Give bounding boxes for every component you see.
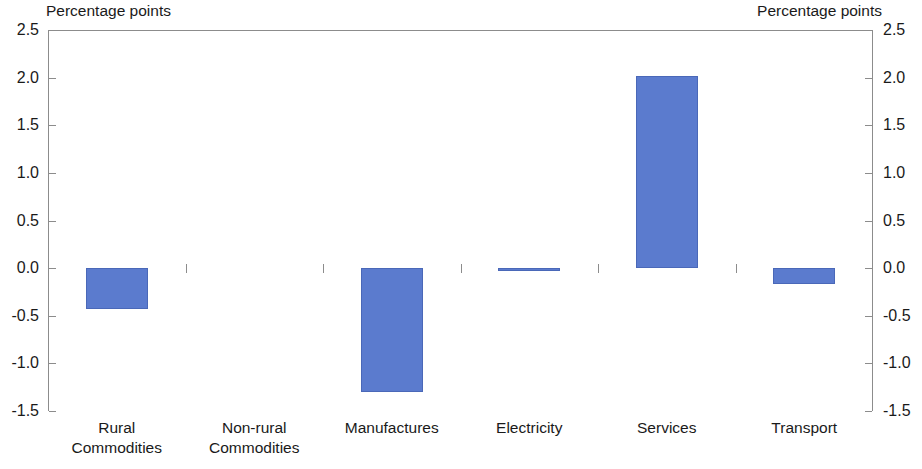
category-separator (598, 264, 599, 273)
y-tick-left (49, 173, 56, 174)
y-tick-label-right: 0.5 (883, 213, 905, 229)
y-tick-left (49, 221, 56, 222)
y-tick-right (865, 363, 872, 364)
y-tick-left (49, 316, 56, 317)
y-tick-label-right: 2.5 (883, 22, 905, 38)
category-separator (736, 264, 737, 273)
y-tick-left (49, 268, 56, 269)
y-tick-right (865, 411, 872, 412)
plot-area: 2.52.52.02.01.51.51.01.00.50.50.00.0-0.5… (48, 30, 873, 411)
category-label-line: Rural (48, 418, 186, 438)
y-tick-label-right: 0.0 (883, 260, 905, 276)
category-label: Electricity (461, 418, 599, 438)
category-separator (323, 264, 324, 273)
y-tick-label-left: 1.0 (17, 165, 39, 181)
y-tick-left (49, 30, 56, 31)
category-label-line: Transport (736, 418, 874, 438)
y-tick-right (865, 268, 872, 269)
y-tick-label-left: 2.0 (17, 70, 39, 86)
y-tick-left (49, 125, 56, 126)
category-label: Transport (736, 418, 874, 438)
y-tick-right (865, 221, 872, 222)
bar (773, 268, 835, 284)
bar (86, 268, 148, 309)
category-label: Manufactures (323, 418, 461, 438)
bar (361, 268, 423, 392)
y-tick-label-left: -1.0 (11, 355, 39, 371)
left-axis-caption: Percentage points (46, 2, 171, 20)
y-tick-right (865, 78, 872, 79)
y-tick-label-left: -1.5 (11, 403, 39, 419)
y-tick-label-left: 0.0 (17, 260, 39, 276)
right-axis-caption: Percentage points (757, 2, 882, 20)
category-label-line: Non-rural (186, 418, 324, 438)
y-tick-left (49, 78, 56, 79)
y-tick-label-right: 1.0 (883, 165, 905, 181)
category-label-line: Commodities (48, 438, 186, 458)
y-tick-label-right: -0.5 (883, 308, 911, 324)
y-tick-left (49, 363, 56, 364)
y-tick-label-left: 1.5 (17, 117, 39, 133)
bar (636, 76, 698, 268)
y-tick-left (49, 411, 56, 412)
y-tick-label-right: -1.5 (883, 403, 911, 419)
y-tick-right (865, 173, 872, 174)
y-tick-label-left: -0.5 (11, 308, 39, 324)
category-axis-labels: RuralCommoditiesNon-ruralCommoditiesManu… (48, 418, 873, 469)
category-label-line: Manufactures (323, 418, 461, 438)
bar (498, 268, 560, 271)
right-axis-line (872, 30, 873, 411)
category-separator (461, 264, 462, 273)
category-label: Services (598, 418, 736, 438)
y-tick-right (865, 125, 872, 126)
category-label-line: Services (598, 418, 736, 438)
y-tick-label-left: 2.5 (17, 22, 39, 38)
y-tick-right (865, 30, 872, 31)
zero-baseline (48, 30, 873, 31)
y-tick-label-right: -1.0 (883, 355, 911, 371)
y-tick-label-right: 1.5 (883, 117, 905, 133)
y-tick-right (865, 316, 872, 317)
category-label: RuralCommodities (48, 418, 186, 458)
category-label-line: Commodities (186, 438, 324, 458)
y-tick-label-left: 0.5 (17, 213, 39, 229)
y-tick-label-right: 2.0 (883, 70, 905, 86)
chart-figure: Percentage points Percentage points 2.52… (0, 0, 922, 469)
category-label: Non-ruralCommodities (186, 418, 324, 458)
category-label-line: Electricity (461, 418, 599, 438)
category-separator (186, 264, 187, 273)
